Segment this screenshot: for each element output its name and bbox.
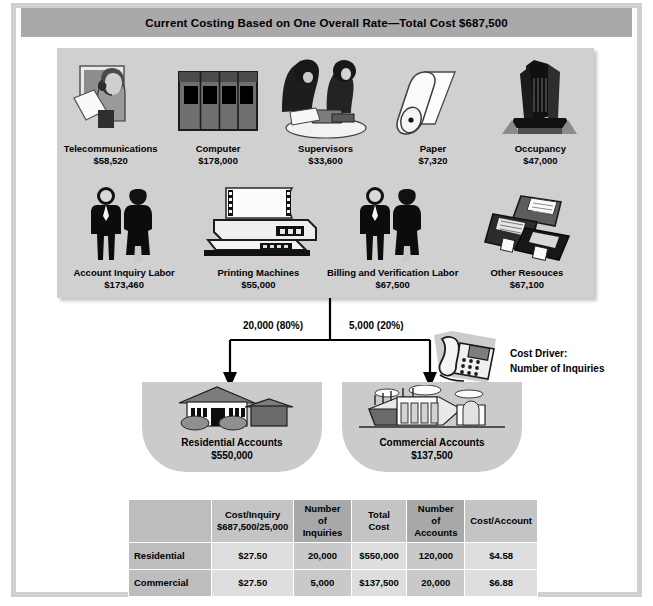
account-box-commercial: Commercial Accounts $137,500 — [342, 382, 522, 472]
resource-pool-panel: Telecommunications $58,520 — [57, 48, 594, 298]
account-amount: $550,000 — [211, 450, 253, 461]
cell-cost-per-inquiry: $27.50 — [212, 542, 294, 569]
table-header-total-cost: Total Cost — [351, 500, 407, 543]
cell-number-of-accounts: 20,000 — [407, 569, 465, 596]
account-amount: $137,500 — [411, 450, 453, 461]
resource-name: Computer — [196, 144, 241, 155]
cost-driver-line1: Cost Driver: — [510, 348, 567, 359]
resource-name: Paper — [420, 144, 446, 155]
cell-total-cost: $137,500 — [351, 569, 407, 596]
header-line1: Number of — [418, 503, 454, 526]
allocation-label-residential: 20,000 (80%) — [243, 320, 303, 331]
cost-summary-table: Cost/Inquiry $687,500/25,000 Number of I… — [128, 499, 538, 597]
resource-name: Occupancy — [515, 144, 566, 155]
cost-driver-text: Cost Driver: Number of Inquiries — [510, 346, 604, 377]
resource-amount: $178,000 — [198, 155, 238, 167]
resource-amount: $67,500 — [375, 279, 409, 291]
diagram-title-band: Current Costing Based on One Overall Rat… — [21, 8, 632, 37]
row-label-commercial: Commercial — [129, 569, 212, 596]
resource-item-paper: Paper $7,320 — [379, 54, 486, 167]
house-icon — [167, 385, 297, 433]
resource-item-billing-verification-labor: Billing and Verification Labor $67,500 — [326, 178, 460, 291]
resource-item-telecommunications: Telecommunications $58,520 — [57, 54, 164, 167]
table-header-cost-per-inquiry: Cost/Inquiry $687,500/25,000 — [212, 500, 294, 543]
resource-name: Billing and Verification Labor — [327, 268, 458, 279]
resource-item-other-resources: Other Resouces $67,100 — [460, 178, 594, 291]
table-corner-cell — [129, 500, 212, 543]
telephone-icon — [430, 329, 504, 393]
cost-driver-line2: Number of Inquiries — [510, 363, 604, 374]
row-label-residential: Residential — [129, 542, 212, 569]
computer-mainframe-icon — [176, 54, 260, 140]
resource-amount: $55,000 — [241, 279, 275, 291]
dot-matrix-printer-icon — [198, 178, 318, 264]
resource-name: Telecommunications — [64, 144, 158, 155]
supervisors-desk-icon — [278, 54, 374, 140]
header-line1: Cost/Inquiry — [225, 509, 280, 520]
header-line1: Number of — [305, 503, 341, 526]
resource-name: Printing Machines — [217, 268, 299, 279]
header-line2: $687,500/25,000 — [217, 521, 288, 532]
resource-name: Account Inquiry Labor — [73, 268, 174, 279]
resource-name: Supervisors — [298, 144, 353, 155]
cell-cost-per-inquiry: $27.50 — [212, 569, 294, 596]
resource-item-supervisors: Supervisors $33,600 — [272, 54, 379, 167]
cell-number-of-inquiries: 5,000 — [294, 569, 351, 596]
cell-cost-per-account: $4.58 — [465, 542, 538, 569]
page-title: Current Costing Based on One Overall Rat… — [145, 17, 507, 29]
office-building-icon — [500, 54, 580, 140]
cell-total-cost: $550,000 — [351, 542, 407, 569]
resource-amount: $7,320 — [418, 155, 447, 167]
resource-amount: $47,000 — [523, 155, 557, 167]
account-name: Commercial Accounts — [379, 437, 484, 448]
cell-number-of-inquiries: 20,000 — [294, 542, 351, 569]
account-box-residential: Residential Accounts $550,000 — [142, 382, 322, 472]
table-row: Residential $27.50 20,000 $550,000 120,0… — [129, 542, 538, 569]
resource-amount: $173,460 — [104, 279, 144, 291]
header-line2: Accounts — [414, 527, 457, 538]
resource-item-account-inquiry-labor: Account Inquiry Labor $173,460 — [57, 178, 191, 291]
header-line1: Total Cost — [368, 509, 390, 532]
header-line1: Cost/Account — [470, 515, 532, 526]
two-people-icon — [353, 178, 433, 264]
floppy-disks-icon — [477, 178, 577, 264]
header-line2: Inquiries — [303, 527, 343, 538]
resource-amount: $58,520 — [94, 155, 128, 167]
account-name: Residential Accounts — [181, 437, 282, 448]
cell-number-of-accounts: 120,000 — [407, 542, 465, 569]
cost-driver-block: Cost Driver: Number of Inquiries — [430, 330, 620, 392]
paper-roll-icon — [395, 54, 471, 140]
resource-name: Other Resouces — [490, 268, 563, 279]
resource-item-computer: Computer $178,000 — [164, 54, 271, 167]
resource-amount: $33,600 — [308, 155, 342, 167]
table-header-number-of-accounts: Number of Accounts — [407, 500, 465, 543]
resource-item-printing-machines: Printing Machines $55,000 — [191, 178, 325, 291]
allocation-label-commercial: 5,000 (20%) — [349, 320, 403, 331]
table-header-cost-per-account: Cost/Account — [465, 500, 538, 543]
telephone-operator-icon — [72, 54, 150, 140]
resource-amount: $67,100 — [510, 279, 544, 291]
table-header-row: Cost/Inquiry $687,500/25,000 Number of I… — [129, 500, 538, 543]
resource-item-occupancy: Occupancy $47,000 — [487, 54, 594, 167]
table-header-number-of-inquiries: Number of Inquiries — [294, 500, 351, 543]
two-people-icon — [84, 178, 164, 264]
table-row: Commercial $27.50 5,000 $137,500 20,000 … — [129, 569, 538, 596]
cell-cost-per-account: $6.88 — [465, 569, 538, 596]
